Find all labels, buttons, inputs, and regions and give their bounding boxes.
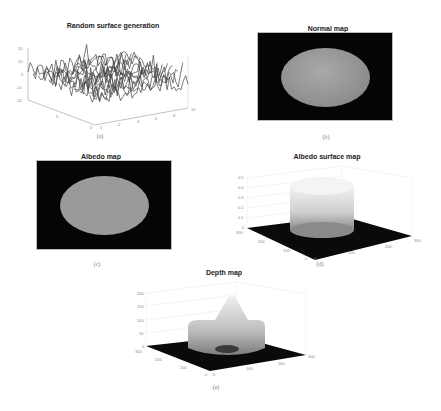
panel-random-surface: Random surface generation 20 10 0 -10 -2… — [0, 0, 220, 140]
caption-e: (e) — [213, 384, 220, 390]
caption-c: (c) — [94, 261, 101, 267]
panel-depth-map: Depth map 200 150 100 50 0 300 200 100 0… — [110, 260, 330, 411]
caption-a: (a) — [97, 133, 104, 139]
albedo-surface-plot — [220, 140, 441, 260]
normal-map-image — [257, 32, 393, 121]
albedo-map-image — [36, 160, 172, 250]
chart-title: Albedo map — [81, 153, 121, 160]
random-surface-plot — [0, 0, 220, 140]
albedo-ellipse — [60, 176, 149, 235]
panel-albedo-surface: Albedo surface map 0.5 0.4 0.3 0.2 0.1 0… — [220, 140, 441, 260]
panel-normal-map: Normal map (b) — [220, 0, 441, 140]
panel-albedo-map: Albedo map (c) — [0, 140, 220, 260]
chart-title: Normal map — [308, 25, 348, 32]
normal-ellipse — [281, 48, 370, 107]
